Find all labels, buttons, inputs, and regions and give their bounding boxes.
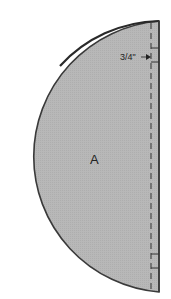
seam-allowance-label: 3/4" xyxy=(120,52,136,62)
piece-label: A xyxy=(90,152,99,167)
pattern-diagram: 3/4" A xyxy=(0,0,171,299)
